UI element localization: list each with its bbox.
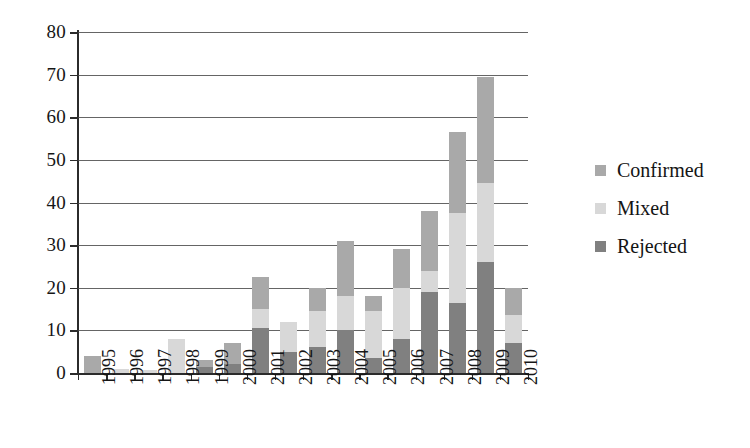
chart-figure: 01020304050607080 1995199619971998199920… [0, 0, 750, 448]
legend-item-mixed[interactable]: Mixed [595, 198, 745, 218]
bar-group-2006[interactable] [393, 32, 410, 373]
legend-swatch-confirmed-icon [595, 165, 606, 176]
x-tick-label-2007: 2007 [438, 349, 456, 385]
y-tick-mark-50 [70, 160, 78, 162]
x-tick-label-2000: 2000 [241, 349, 259, 385]
bar-group-2000[interactable] [224, 32, 241, 373]
bar-segment-2007-confirmed[interactable] [421, 211, 438, 271]
bar-group-1999[interactable] [196, 32, 213, 373]
bar-group-2007[interactable] [421, 32, 438, 373]
x-tick-label-2003: 2003 [325, 349, 343, 385]
legend-label-confirmed: Confirmed [617, 160, 704, 180]
bar-segment-2004-confirmed[interactable] [337, 241, 354, 296]
x-tick-label-2004: 2004 [353, 349, 371, 385]
x-tick-label-1995: 1995 [100, 349, 118, 385]
legend-item-rejected[interactable]: Rejected [595, 236, 745, 256]
y-tick-mark-70 [70, 75, 78, 77]
bar-group-2010[interactable] [505, 32, 522, 373]
y-tick-mark-0 [70, 373, 78, 375]
bar-segment-2010-confirmed[interactable] [505, 288, 522, 316]
x-tick-label-1996: 1996 [128, 349, 146, 385]
legend-swatch-rejected-icon [595, 241, 606, 252]
legend-label-rejected: Rejected [617, 236, 687, 256]
bar-segment-2003-mixed[interactable] [309, 311, 326, 347]
bar-segment-2010-mixed[interactable] [505, 315, 522, 343]
chart-legend: ConfirmedMixedRejected [595, 160, 745, 274]
bar-segment-2003-confirmed[interactable] [309, 288, 326, 311]
bar-group-2001[interactable] [252, 32, 269, 373]
bar-group-1995[interactable] [84, 32, 101, 373]
y-tick-mark-40 [70, 203, 78, 205]
bar-segment-2001-confirmed[interactable] [252, 277, 269, 309]
x-tick-mark-0 [78, 373, 79, 380]
bar-segment-2006-confirmed[interactable] [393, 249, 410, 287]
y-tick-label-80: 80 [47, 22, 66, 41]
y-tick-label-20: 20 [47, 278, 66, 297]
y-tick-label-30: 30 [47, 235, 66, 254]
y-tick-label-70: 70 [47, 65, 66, 84]
x-tick-label-2001: 2001 [269, 349, 287, 385]
bar-segment-2001-mixed[interactable] [252, 309, 269, 328]
bar-group-1997[interactable] [140, 32, 157, 373]
bar-segment-2008-mixed[interactable] [449, 213, 466, 303]
bar-group-2009[interactable] [477, 32, 494, 373]
bar-group-2005[interactable] [365, 32, 382, 373]
x-tick-label-1999: 1999 [213, 349, 231, 385]
x-tick-label-1997: 1997 [156, 349, 174, 385]
x-tick-label-2010: 2010 [522, 349, 540, 385]
x-tick-label-2008: 2008 [466, 349, 484, 385]
y-tick-mark-30 [70, 245, 78, 247]
bar-segment-2005-confirmed[interactable] [365, 296, 382, 311]
bar-segment-2006-mixed[interactable] [393, 288, 410, 339]
y-tick-label-10: 10 [47, 320, 66, 339]
x-tick-label-2005: 2005 [381, 349, 399, 385]
bar-segment-2007-mixed[interactable] [421, 271, 438, 292]
bar-segment-2009-mixed[interactable] [477, 183, 494, 262]
x-tick-label-2002: 2002 [297, 349, 315, 385]
y-tick-label-50: 50 [47, 150, 66, 169]
legend-label-mixed: Mixed [617, 198, 669, 218]
y-tick-mark-20 [70, 288, 78, 290]
bar-segment-2004-mixed[interactable] [337, 296, 354, 330]
x-tick-label-2009: 2009 [494, 349, 512, 385]
legend-item-confirmed[interactable]: Confirmed [595, 160, 745, 180]
bar-segment-2008-confirmed[interactable] [449, 132, 466, 213]
bar-group-2008[interactable] [449, 32, 466, 373]
bar-series-layer [78, 32, 528, 373]
y-tick-mark-80 [70, 32, 78, 34]
x-tick-label-2006: 2006 [409, 349, 427, 385]
y-tick-mark-60 [70, 117, 78, 119]
bar-segment-2009-confirmed[interactable] [477, 77, 494, 184]
y-tick-label-0: 0 [56, 363, 66, 382]
y-tick-label-40: 40 [47, 193, 66, 212]
bar-group-1996[interactable] [112, 32, 129, 373]
legend-swatch-mixed-icon [595, 203, 606, 214]
y-tick-label-60: 60 [47, 107, 66, 126]
bar-group-2004[interactable] [337, 32, 354, 373]
bar-group-1998[interactable] [168, 32, 185, 373]
bar-group-2003[interactable] [309, 32, 326, 373]
bar-segment-1995-confirmed[interactable] [84, 356, 101, 373]
x-tick-label-1998: 1998 [184, 349, 202, 385]
bar-group-2002[interactable] [280, 32, 297, 373]
bar-segment-2002-mixed[interactable] [280, 322, 297, 352]
y-tick-mark-10 [70, 330, 78, 332]
